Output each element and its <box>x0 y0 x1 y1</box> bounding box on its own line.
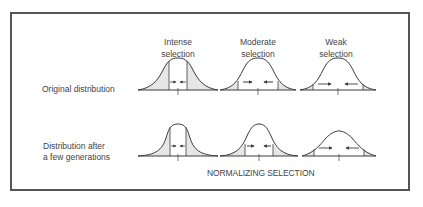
curve-after-weak <box>302 131 376 161</box>
distribution-curves <box>0 0 423 207</box>
curve-after-moderate <box>220 124 298 161</box>
curve-original-weak <box>300 58 376 95</box>
curve-original-intense <box>138 58 218 95</box>
curve-after-intense <box>138 124 218 161</box>
curve-original-moderate <box>220 58 296 95</box>
